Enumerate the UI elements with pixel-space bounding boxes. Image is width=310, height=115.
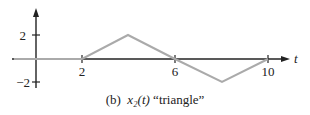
t-axis-arrow-icon bbox=[281, 56, 290, 62]
y-tick-label-2: 2 bbox=[20, 28, 27, 43]
caption-signal: x₂(t) bbox=[127, 92, 150, 107]
x-tick-label-6: 6 bbox=[172, 64, 179, 79]
caption-prefix: (b) bbox=[106, 92, 121, 107]
y-axis-arrow-icon bbox=[33, 8, 39, 17]
chart-caption: (b) x₂(t) “triangle” bbox=[0, 92, 310, 108]
caption-name: “triangle” bbox=[153, 92, 204, 107]
y-tick-label-neg2: −2 bbox=[16, 75, 30, 90]
t-axis-label: t bbox=[294, 51, 298, 66]
x-tick-label-2: 2 bbox=[79, 64, 86, 79]
x-tick-label-10: 10 bbox=[262, 64, 275, 79]
